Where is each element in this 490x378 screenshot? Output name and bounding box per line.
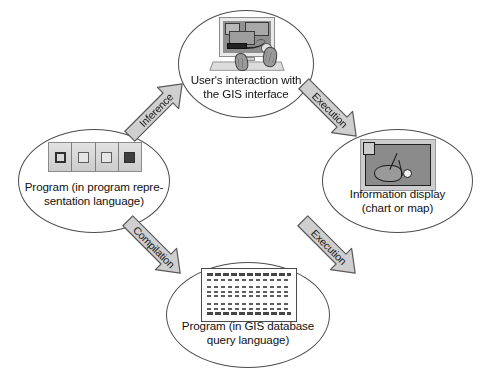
arrow-shape xyxy=(116,209,192,285)
hand-fingers xyxy=(237,58,245,69)
code-line xyxy=(207,273,291,276)
cell-square-outline-mid xyxy=(101,152,112,163)
map-frame xyxy=(360,139,436,191)
cell-square-outline-dark xyxy=(55,152,66,163)
code-listing-icon xyxy=(201,268,297,322)
node-information-display-label: Information display (chart or map) xyxy=(323,187,472,215)
code-line xyxy=(207,312,291,315)
cell-1 xyxy=(49,143,72,171)
cell-4 xyxy=(119,143,141,171)
cell-3 xyxy=(96,143,119,171)
code-line xyxy=(207,279,291,281)
four-cell-program-icon xyxy=(48,142,142,172)
cell-2 xyxy=(72,143,95,171)
code-line xyxy=(207,286,291,288)
cell-square-filled xyxy=(124,152,135,163)
code-listing-box xyxy=(201,268,297,322)
node-program-gis-query-label: Program (in GIS database query language) xyxy=(167,319,329,347)
map-chart-display-icon xyxy=(360,139,436,191)
cell-square-outline-mid xyxy=(78,152,89,163)
code-line xyxy=(207,291,291,293)
node-user-interaction[interactable]: User's interaction with the GIS interfac… xyxy=(178,10,314,118)
code-line xyxy=(207,295,291,297)
node-program-representation-label: Program (in program repre- sentation lan… xyxy=(19,180,169,208)
cell-row xyxy=(48,142,142,172)
code-line xyxy=(207,308,291,310)
screen-bar xyxy=(227,43,247,49)
hand-fingers xyxy=(265,51,275,62)
computer-with-hands-icon xyxy=(211,17,283,73)
map-marker-dot xyxy=(403,169,412,178)
map-corner-tab xyxy=(363,142,375,155)
arrow-compilation: Compilation xyxy=(116,209,192,285)
node-program-gis-query[interactable]: Program (in GIS database query language) xyxy=(166,262,330,368)
gis-interaction-cycle-diagram: User's interaction with the GIS interfac… xyxy=(0,0,490,378)
code-line xyxy=(207,303,291,305)
